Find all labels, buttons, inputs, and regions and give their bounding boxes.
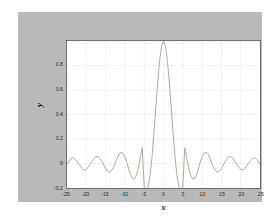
plot-svg <box>67 41 260 188</box>
y-axis-tick-labels: -0.200.20.40.60.8 <box>38 40 63 189</box>
x-tick-label: -10 <box>121 192 129 197</box>
y-axis-label: y <box>34 103 44 107</box>
y-tick-label: 0.6 <box>56 87 63 92</box>
x-tick-label: -5 <box>142 192 147 197</box>
x-tick-label: -20 <box>82 192 90 197</box>
x-tick-label: 5 <box>182 192 185 197</box>
figure-canvas: -0.200.20.40.60.8 -25-20-15-10-505101520… <box>18 12 262 202</box>
y-tick-label: 0.4 <box>56 112 63 117</box>
y-tick-label: 0 <box>60 162 63 167</box>
x-tick-label: -25 <box>62 192 70 197</box>
x-tick-label: 10 <box>200 192 206 197</box>
grid-lines <box>67 41 260 188</box>
plot-axes <box>66 40 261 189</box>
x-tick-label: -15 <box>101 192 109 197</box>
x-axis-label: x <box>66 202 261 212</box>
y-tick-label: 0.2 <box>56 137 63 142</box>
x-tick-label: 15 <box>219 192 225 197</box>
x-tick-label: 20 <box>239 192 245 197</box>
x-tick-label: 25 <box>258 192 264 197</box>
x-axis-tick-labels: -25-20-15-10-50510152025 <box>66 192 261 202</box>
y-tick-label: 0.8 <box>56 62 63 67</box>
figure-window: -0.200.20.40.60.8 -25-20-15-10-505101520… <box>0 0 280 217</box>
x-tick-label: 0 <box>162 192 165 197</box>
